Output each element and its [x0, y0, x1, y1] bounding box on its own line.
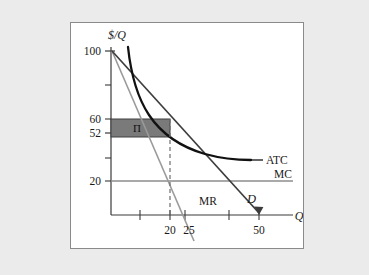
demand-arrowhead: [254, 207, 263, 215]
monopoly-diagram-chart: 100 60 52 20 20 25 50 $/Q Q ATC MC MR D …: [71, 23, 303, 248]
atc-label: ATC: [266, 154, 288, 166]
y-tick-label-52: 52: [90, 127, 102, 139]
mr-line: [112, 51, 194, 241]
mr-label: MR: [199, 195, 217, 207]
x-tick-label-20: 20: [164, 224, 176, 236]
x-axis-title: Q: [295, 209, 303, 223]
y-axis-title: $/Q: [108, 28, 126, 42]
mc-label: MC: [274, 168, 292, 180]
demand-label: D: [246, 192, 256, 206]
atc-curve: [128, 47, 251, 160]
y-tick-label-60: 60: [90, 113, 102, 125]
profit-label: Π: [133, 122, 141, 134]
x-tick-label-25: 25: [183, 224, 195, 236]
y-tick-label-20: 20: [90, 175, 102, 187]
x-tick-label-50: 50: [253, 224, 265, 236]
figure-panel: 100 60 52 20 20 25 50 $/Q Q ATC MC MR D …: [70, 22, 304, 249]
y-tick-label-100: 100: [84, 45, 102, 57]
